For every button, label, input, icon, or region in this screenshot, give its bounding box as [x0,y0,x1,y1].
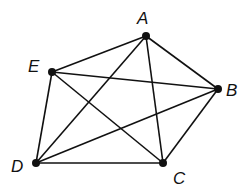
edge-e-b [52,72,218,89]
vertex-label-a: A [136,9,148,28]
vertex-d [32,159,40,167]
vertex-label-b: B [226,81,237,100]
vertex-label-c: C [173,169,186,188]
edge-a-d [36,36,146,163]
vertex-label-e: E [28,57,40,76]
edge-a-b [146,36,218,89]
vertex-b [214,85,222,93]
vertex-a [142,32,150,40]
vertex-label-d: D [11,157,23,176]
vertex-c [159,159,167,167]
edge-e-d [36,72,52,163]
edge-a-c [146,36,163,163]
complete-graph-k5: ABCDE [0,0,249,189]
edges-group [36,36,218,163]
edge-a-e [52,36,146,72]
vertex-e [48,68,56,76]
labels-group: ABCDE [11,9,237,188]
